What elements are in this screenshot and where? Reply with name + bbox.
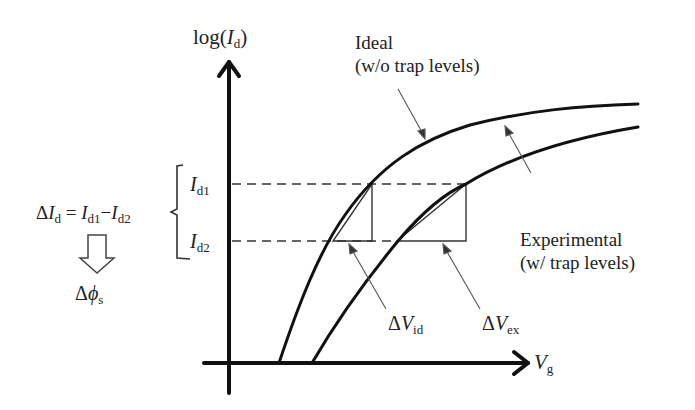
ideal-curve-label: Ideal (w/o trap levels) (355, 33, 480, 75)
experimental-curve-label: Experimental (w/ trap levels) (520, 230, 635, 272)
level-label-upper: Id1 (190, 174, 210, 197)
delta-v-triangles (333, 184, 466, 241)
delta-phi-s-label: Δϕs (75, 283, 103, 306)
level-label-lower: Id2 (190, 231, 210, 254)
pointer-arrowhead-icon (418, 129, 425, 139)
delta-id-equation: ΔId = Id1−Id2 (36, 203, 131, 225)
axes (204, 62, 528, 393)
y-axis-label: log(Id) (193, 27, 247, 50)
delta-v-ex-label: ΔVex (482, 313, 519, 336)
pointer-arrowhead-icon (349, 244, 357, 254)
x-axis-label: Vg (534, 352, 553, 375)
delta-v-id-label: ΔVid (388, 313, 423, 336)
hollow-down-arrow-icon (80, 235, 114, 273)
pointer-arrowhead-icon (505, 126, 513, 136)
pointer-arrowhead-icon (443, 244, 451, 254)
bracket (171, 165, 190, 259)
